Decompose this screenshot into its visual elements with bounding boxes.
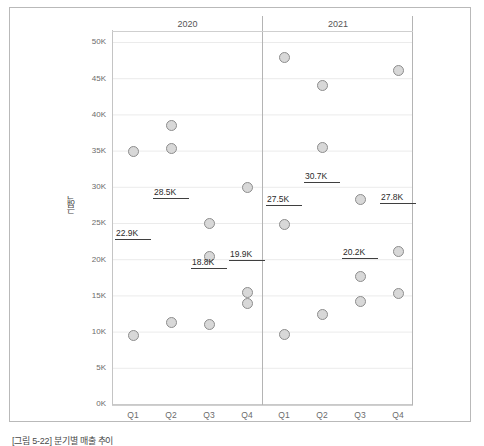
x-tick-2021-q2: Q2 [302,410,342,420]
data-point[interactable] [279,329,290,340]
data-point[interactable] [279,52,290,63]
y-tick-30k: 30K [72,183,106,191]
data-point[interactable] [204,319,215,330]
reference-line [266,205,302,206]
data-point[interactable] [204,218,215,229]
reference-line-label: 22.9K [116,228,138,238]
data-point[interactable] [355,194,366,205]
reference-line-label: 19.9K [230,249,252,259]
x-tick-2020-q4: Q4 [227,410,267,420]
panel-header-2021: 2021 [263,19,413,29]
x-tick-2020-q3: Q3 [189,410,229,420]
x-tick-2020-q2: Q2 [151,410,191,420]
data-point[interactable] [393,246,404,257]
reference-line [191,268,227,269]
reference-line-label: 28.5K [154,187,176,197]
panel-header-2020: 2020 [112,19,263,29]
y-tick-25k: 25K [72,219,106,227]
y-tick-20k: 20K [72,256,106,264]
data-point[interactable] [393,288,404,299]
y-tick-15k: 15K [72,292,106,300]
data-point[interactable] [279,219,290,230]
reference-line [342,258,378,259]
x-tick-2021-q3: Q3 [340,410,380,420]
x-tick-2021-q1: Q1 [264,410,304,420]
data-point[interactable] [317,309,328,320]
reference-line-label: 27.8K [381,192,403,202]
data-point[interactable] [355,271,366,282]
y-tick-40k: 40K [72,111,106,119]
reference-line-label: 18.8K [192,257,214,267]
x-tick-2020-q1: Q1 [113,410,153,420]
scatter-chart: 금액 50K 45K 40K 35K 30K 25K 20K 15K 10K 5… [0,0,484,446]
y-tick-0k: 0K [72,400,106,408]
data-point[interactable] [317,142,328,153]
figure-caption: [그림 5-22] 분기별 매출 추이 [12,434,113,446]
reference-line-label: 30.7K [305,171,327,181]
reference-line [304,182,340,183]
y-tick-10k: 10K [72,328,106,336]
data-point[interactable] [242,182,253,193]
data-point[interactable] [242,287,253,298]
data-point[interactable] [242,298,253,309]
data-point[interactable] [128,330,139,341]
reference-line [380,203,416,204]
y-tick-35k: 35K [72,147,106,155]
reference-line-label: 20.2K [343,247,365,257]
reference-line [153,198,189,199]
data-point[interactable] [166,143,177,154]
reference-line [229,260,265,261]
data-point[interactable] [128,146,139,157]
data-point[interactable] [393,65,404,76]
y-tick-5k: 5K [72,364,106,372]
data-point[interactable] [355,296,366,307]
y-tick-50k: 50K [72,38,106,46]
data-point[interactable] [166,120,177,131]
data-point[interactable] [166,317,177,328]
reference-line [115,239,151,240]
data-point[interactable] [317,80,328,91]
x-tick-2021-q4: Q4 [378,410,418,420]
y-tick-45k: 45K [72,75,106,83]
reference-line-label: 27.5K [267,194,289,204]
y-axis-title: 금액 [64,196,98,214]
